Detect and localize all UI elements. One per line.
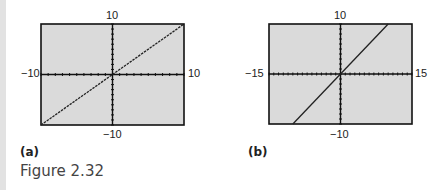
panel-a-xmax-label: 10 xyxy=(188,67,200,79)
panel-a-ymin-label: −10 xyxy=(103,128,122,140)
panel-a-label: (a) xyxy=(20,145,39,159)
panel-a-ymax-label: 10 xyxy=(106,9,118,21)
graph-panel-a xyxy=(41,24,184,125)
panel-b-ymin-label: −10 xyxy=(330,128,349,140)
figure-caption: Figure 2.32 xyxy=(20,162,104,180)
panel-b-xmax-label: 15 xyxy=(415,67,427,79)
panel-b-xmin-label: −15 xyxy=(245,67,264,79)
panel-b-ymax-label: 10 xyxy=(334,9,346,21)
panel-a-xmin-label: −10 xyxy=(21,67,40,79)
graph-panel-b xyxy=(269,24,412,124)
panel-b-label: (b) xyxy=(248,145,268,159)
